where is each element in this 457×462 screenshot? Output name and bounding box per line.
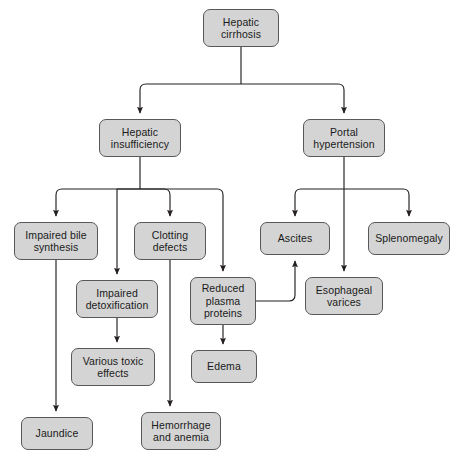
node-label: Ascites — [278, 232, 313, 245]
node-impaired-bile-synthesis[interactable]: Impaired bile synthesis — [14, 222, 98, 260]
edge-cirrhosis-to-hepatic-insufficiency — [140, 84, 241, 113]
node-label: Impaired bile synthesis — [25, 229, 86, 254]
node-hepatic-cirrhosis[interactable]: Hepatic cirrhosis — [203, 9, 279, 47]
node-splenomegaly[interactable]: Splenomegaly — [368, 222, 450, 255]
node-hepatic-insufficiency[interactable]: Hepatic insufficiency — [99, 119, 181, 157]
edge-hepatic-insufficiency-to-clotting-defects — [140, 189, 170, 216]
node-label: Hepatic insufficiency — [111, 126, 169, 151]
node-label: Jaundice — [36, 427, 79, 440]
node-ascites[interactable]: Ascites — [260, 222, 330, 255]
node-label: Various toxic effects — [83, 355, 144, 380]
node-label: Esophageal varices — [316, 284, 372, 309]
node-esophageal-varices[interactable]: Esophageal varices — [305, 277, 383, 315]
node-hemorrhage-and-anemia[interactable]: Hemorrhage and anemia — [141, 412, 221, 450]
node-portal-hypertension[interactable]: Portal hypertension — [303, 119, 385, 157]
edge-portal-hypertension-to-ascites — [295, 189, 344, 216]
edge-hepatic-insufficiency-to-impaired-bile-synthesis — [56, 189, 140, 216]
node-label: Edema — [207, 360, 241, 373]
edge-cirrhosis-to-portal-hypertension — [241, 84, 344, 113]
node-label: Clotting defects — [152, 229, 188, 254]
node-various-toxic-effects[interactable]: Various toxic effects — [71, 348, 155, 386]
node-label: Reduced plasma proteins — [202, 282, 245, 320]
edge-reduced-plasma-proteins-to-ascites — [256, 261, 295, 301]
node-clotting-defects[interactable]: Clotting defects — [134, 222, 206, 260]
edge-portal-hypertension-to-splenomegaly — [344, 189, 409, 216]
node-impaired-detoxification[interactable]: Impaired detoxification — [76, 280, 158, 318]
node-label: Hepatic cirrhosis — [221, 16, 261, 41]
node-label: Hemorrhage and anemia — [151, 419, 210, 444]
node-label: Impaired detoxification — [86, 287, 149, 312]
node-edema[interactable]: Edema — [191, 350, 257, 383]
node-jaundice[interactable]: Jaundice — [21, 417, 93, 450]
node-reduced-plasma-proteins[interactable]: Reduced plasma proteins — [190, 277, 256, 325]
node-label: Splenomegaly — [375, 232, 443, 245]
flowchart-diagram: Hepatic cirrhosis Hepatic insufficiency … — [0, 0, 457, 462]
node-label: Portal hypertension — [313, 126, 374, 151]
